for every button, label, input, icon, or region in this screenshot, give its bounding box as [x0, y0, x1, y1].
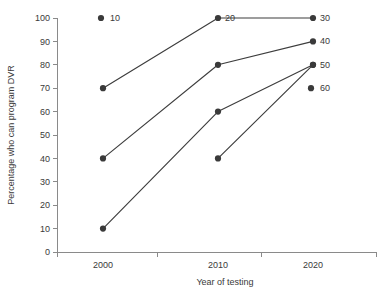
line-chart-canvas: 0102030405060708090100 200020102020 1020… — [0, 0, 392, 291]
data-point-marker — [310, 38, 316, 44]
y-tick-label: 80 — [40, 60, 50, 70]
y-axis-ticks: 0102030405060708090100 — [35, 13, 57, 257]
series-line — [103, 18, 313, 88]
y-tick-label: 0 — [45, 247, 50, 257]
y-tick-label: 40 — [40, 154, 50, 164]
series-line — [103, 65, 313, 229]
point-value-label: 40 — [320, 36, 330, 46]
point-value-label: 20 — [225, 13, 235, 23]
y-tick-label: 60 — [40, 107, 50, 117]
data-point-marker — [310, 62, 316, 68]
y-tick-label: 30 — [40, 177, 50, 187]
data-point-marker — [100, 226, 106, 232]
y-axis-title: Percentage who can program DVR — [6, 65, 16, 205]
annotation-marker — [98, 15, 104, 21]
point-value-label: 50 — [320, 60, 330, 70]
point-value-label: 30 — [320, 13, 330, 23]
data-point-marker — [215, 15, 221, 21]
point-value-label: 60 — [320, 83, 330, 93]
data-point-marker — [100, 155, 106, 161]
data-point-marker — [215, 109, 221, 115]
chart-series — [103, 18, 313, 229]
annotation-marker — [308, 85, 314, 91]
series-line — [103, 41, 313, 158]
y-tick-label: 50 — [40, 130, 50, 140]
x-tick-label: 2000 — [93, 260, 113, 270]
data-point-marker — [215, 62, 221, 68]
y-tick-label: 10 — [40, 224, 50, 234]
x-axis-ticks: 200020102020 — [57, 252, 376, 270]
chart-figure: 0102030405060708090100 200020102020 1020… — [0, 0, 392, 291]
y-tick-label: 100 — [35, 13, 50, 23]
x-axis-title: Year of testing — [196, 277, 253, 287]
series-line — [218, 65, 313, 159]
x-tick-label: 2020 — [303, 260, 323, 270]
x-tick-label: 2010 — [208, 260, 228, 270]
y-tick-label: 70 — [40, 83, 50, 93]
y-tick-label: 90 — [40, 37, 50, 47]
data-point-marker — [215, 155, 221, 161]
data-point-marker — [310, 15, 316, 21]
data-point-marker — [100, 85, 106, 91]
y-tick-label: 20 — [40, 200, 50, 210]
chart-annotations: 102030405060 — [98, 13, 330, 93]
point-value-label: 10 — [110, 13, 120, 23]
chart-axes — [57, 18, 376, 252]
